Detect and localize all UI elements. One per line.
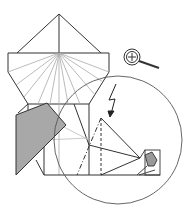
upper-band	[8, 53, 109, 104]
origami-diagram	[0, 0, 188, 207]
detail-box	[137, 150, 160, 175]
lightning-arrow-icon	[108, 84, 116, 117]
top-triangle	[17, 14, 101, 53]
zoom-callout-circle	[54, 76, 182, 204]
magnifier-icon	[124, 49, 159, 68]
